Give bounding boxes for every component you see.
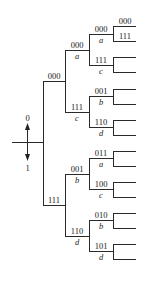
branch-code: 100 — [95, 179, 108, 189]
branch-symbol: d — [99, 252, 104, 262]
branch-code: 011 — [95, 148, 107, 158]
level3-branch: 100 c — [89, 179, 113, 200]
level2-branch: 000 a — [65, 40, 89, 61]
level1-bottom-branch: 111 — [43, 195, 65, 206]
branch-symbol: b — [99, 221, 103, 231]
branch-symbol: d — [75, 237, 80, 247]
level3-branch: 000 a — [89, 24, 113, 45]
branch-code: 110 — [71, 226, 83, 236]
branch-symbol: a — [99, 159, 103, 169]
branch-symbol: c — [99, 190, 103, 200]
branch-symbol: b — [99, 97, 103, 107]
arrow-down-label: 1 — [25, 163, 29, 173]
level3-branch: 101 d — [89, 241, 113, 262]
leaf-code: 111 — [119, 31, 131, 41]
leaf-code: 000 — [119, 16, 132, 26]
branch-code: 101 — [95, 241, 108, 251]
level1-top-branch: 000 — [43, 71, 65, 82]
direction-indicator: 0 1 — [12, 113, 43, 173]
arrow-up-label: 0 — [25, 113, 29, 123]
branch-code: 000 — [48, 71, 61, 81]
level2-branch: 110 d — [65, 226, 89, 247]
branch-code: 000 — [71, 40, 84, 50]
arrow-up-icon — [25, 123, 30, 130]
branch-symbol: c — [75, 113, 79, 123]
branch-symbol: d — [99, 128, 104, 138]
branch-symbol: b — [75, 175, 79, 185]
level3-branch: 001 b — [89, 86, 113, 107]
branch-code: 111 — [48, 195, 60, 205]
branch-symbol: a — [99, 35, 103, 45]
level2-branch: 111 c — [65, 102, 89, 123]
level3-branch: 010 b — [89, 210, 113, 231]
code-tree-diagram: 0 1 000 111 000 a 111 c 001 b 110 d — [0, 0, 147, 281]
branch-code: 111 — [95, 55, 107, 65]
branch-code: 110 — [95, 117, 107, 127]
level3-branch: 110 d — [89, 117, 113, 138]
level2-branch: 001 b — [65, 164, 89, 185]
leaf-branches — [113, 26, 136, 260]
branch-code: 010 — [95, 210, 108, 220]
branch-code: 001 — [71, 164, 84, 174]
level3-branch: 011 a — [89, 148, 113, 169]
branch-code: 111 — [71, 102, 83, 112]
branch-symbol: a — [75, 51, 79, 61]
branch-symbol: c — [99, 66, 103, 76]
branch-code: 000 — [95, 24, 108, 34]
level3-branch: 111 c — [89, 55, 113, 76]
branch-code: 001 — [95, 86, 108, 96]
arrow-down-icon — [25, 154, 30, 161]
